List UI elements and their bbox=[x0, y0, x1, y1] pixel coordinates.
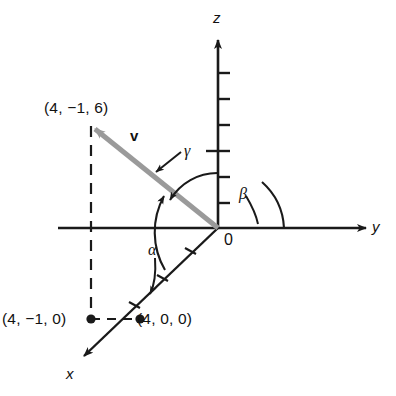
angle-arc-beta bbox=[262, 182, 284, 228]
projection-dashed-lines bbox=[91, 126, 140, 319]
label-axis-x: x bbox=[66, 366, 74, 381]
beta-leader bbox=[246, 196, 258, 224]
angle-arc-alpha bbox=[155, 196, 165, 270]
point-xy-projection bbox=[86, 314, 95, 323]
label-vector-v: v bbox=[130, 128, 138, 143]
beta-arc bbox=[262, 182, 284, 228]
label-axis-y: y bbox=[372, 219, 380, 234]
label-point-xy-projection: (4, −1, 0) bbox=[2, 311, 66, 327]
label-angle-beta: β bbox=[239, 186, 247, 202]
label-angle-gamma: γ bbox=[184, 143, 190, 159]
label-origin: 0 bbox=[224, 232, 233, 248]
label-angle-alpha: α bbox=[148, 242, 156, 258]
label-point-vector-tip: (4, −1, 6) bbox=[44, 100, 108, 116]
label-axis-z: z bbox=[213, 10, 221, 25]
label-point-x-intercept: (4, 0, 0) bbox=[137, 311, 192, 327]
z-axis bbox=[206, 40, 230, 228]
gamma-leader bbox=[156, 152, 181, 172]
coordinate-axes-diagram bbox=[0, 0, 396, 396]
vector-direction-angles-figure: (4, −1, 6) (4, −1, 0) (4, 0, 0) v z y x … bbox=[0, 0, 396, 396]
label-leader-lines bbox=[150, 152, 258, 294]
alpha-arc bbox=[155, 196, 165, 270]
